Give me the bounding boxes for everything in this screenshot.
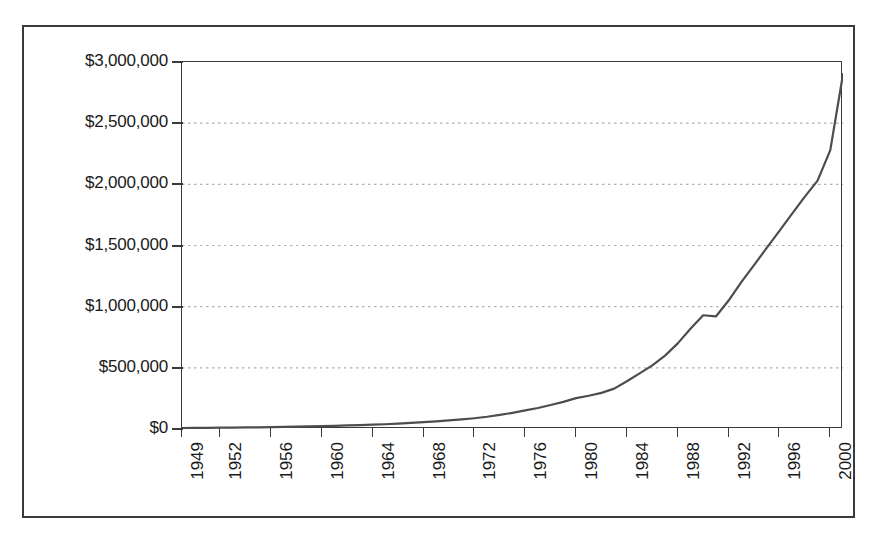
y-axis-tick-label: $3,000,000 — [85, 51, 168, 71]
x-axis-tick-mark — [219, 428, 220, 437]
x-axis-tick-mark — [575, 428, 576, 437]
y-axis-tick-mark — [172, 306, 183, 308]
x-axis-tick-label: 1992 — [735, 442, 755, 480]
chart-container: $0$500,000$1,000,000$1,500,000$2,000,000… — [0, 0, 878, 547]
y-axis: $0$500,000$1,000,000$1,500,000$2,000,000… — [0, 0, 168, 547]
plot-svg — [182, 62, 843, 429]
y-axis-tick-label: $2,500,000 — [85, 112, 168, 132]
x-axis-tick-mark — [423, 428, 424, 437]
x-axis-tick-label: 2000 — [836, 442, 856, 480]
y-axis-tick-mark — [172, 245, 183, 247]
x-axis-tick-mark — [829, 428, 830, 437]
x-axis-tick-label: 1984 — [633, 442, 653, 480]
x-axis-tick-mark — [677, 428, 678, 437]
y-axis-tick-label: $0 — [149, 418, 168, 438]
x-axis-tick-label: 1988 — [684, 442, 704, 480]
x-axis-tick-label: 1956 — [277, 442, 297, 480]
y-axis-tick-mark — [172, 183, 183, 185]
x-axis-tick-label: 1980 — [582, 442, 602, 480]
x-axis-tick-mark — [524, 428, 525, 437]
x-axis-tick-mark — [626, 428, 627, 437]
gridlines — [182, 123, 843, 368]
x-axis-tick-label: 1964 — [379, 442, 399, 480]
x-axis-tick-mark — [778, 428, 779, 437]
x-axis-tick-label: 1949 — [188, 442, 208, 480]
x-axis-tick-mark — [321, 428, 322, 437]
y-axis-tick-mark — [172, 428, 183, 430]
y-axis-tick-mark — [172, 61, 183, 63]
x-axis-tick-mark — [473, 428, 474, 437]
plot-area — [181, 61, 842, 428]
y-axis-tick-mark — [172, 367, 183, 369]
y-axis-tick-label: $2,000,000 — [85, 173, 168, 193]
y-axis-tick-label: $1,000,000 — [85, 296, 168, 316]
x-axis-tick-label: 1996 — [785, 442, 805, 480]
data-series-line — [182, 74, 843, 428]
x-axis-tick-label: 1968 — [430, 442, 450, 480]
y-axis-tick-mark — [172, 122, 183, 124]
x-axis-tick-label: 1960 — [328, 442, 348, 480]
y-axis-tick-label: $1,500,000 — [85, 235, 168, 255]
x-axis-tick-label: 1972 — [480, 442, 500, 480]
x-axis-tick-label: 1976 — [531, 442, 551, 480]
x-axis-tick-label: 1952 — [226, 442, 246, 480]
x-axis-tick-mark — [728, 428, 729, 437]
x-axis-tick-mark — [372, 428, 373, 437]
y-axis-tick-label: $500,000 — [99, 357, 168, 377]
x-axis-tick-mark — [270, 428, 271, 437]
